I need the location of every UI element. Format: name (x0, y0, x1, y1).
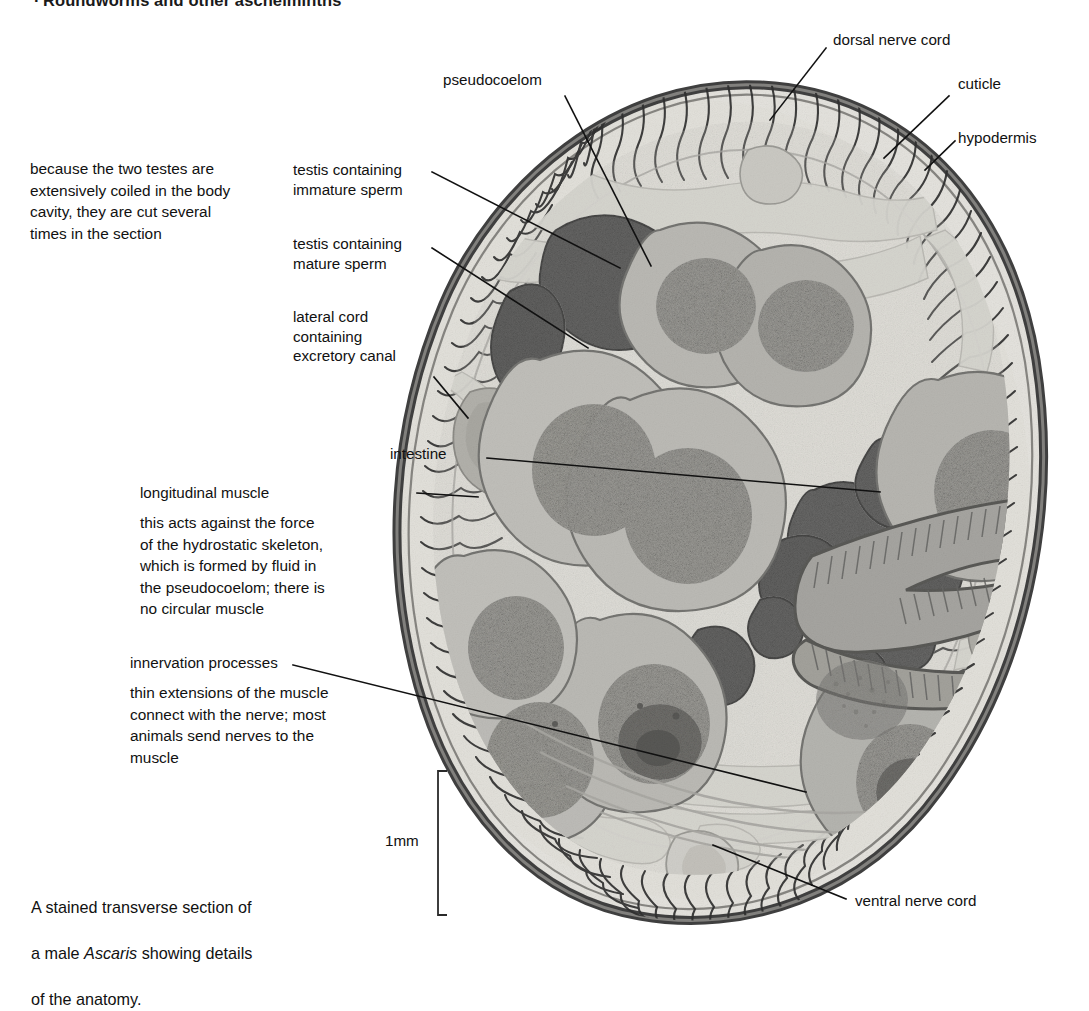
running-head-text: Roundworms and other aschelminths (43, 0, 342, 9)
figure-caption: A stained transverse section of a male A… (31, 873, 361, 1011)
running-head-bullet: · (34, 0, 43, 10)
label-ventral-nerve-cord: ventral nerve cord (855, 891, 977, 911)
label-intestine: intestine (390, 444, 447, 464)
label-hypodermis: hypodermis (958, 128, 1037, 148)
note-testes-coiled: because the two testes are extensively c… (30, 158, 290, 244)
label-testis-immature-sperm: testis containing immature sperm (293, 160, 438, 199)
note-innervation: thin extensions of the muscle connect wi… (130, 682, 430, 768)
label-innervation-processes: innervation processes (130, 653, 278, 673)
note-muscle: this acts against the force of the hydro… (140, 512, 430, 620)
caption-line-3: of the anatomy. (31, 990, 141, 1008)
label-dorsal-nerve-cord: dorsal nerve cord (833, 30, 950, 50)
scale-bar-bracket (438, 771, 447, 915)
caption-line-1: A stained transverse section of (31, 898, 251, 916)
running-head: ·Roundworms and other aschelminths (34, 0, 342, 10)
caption-line-2a: a male (31, 944, 84, 962)
caption-species-name: Ascaris (84, 944, 137, 962)
label-testis-mature-sperm: testis containing mature sperm (293, 234, 438, 273)
scale-bar-label: 1mm (385, 832, 419, 849)
label-cuticle: cuticle (958, 74, 1001, 94)
label-longitudinal-muscle: longitudinal muscle (140, 483, 269, 503)
label-lateral-cord: lateral cord containing excretory canal (293, 307, 443, 366)
label-pseudocoelom: pseudocoelom (443, 70, 542, 90)
caption-line-2b: showing details (137, 944, 252, 962)
